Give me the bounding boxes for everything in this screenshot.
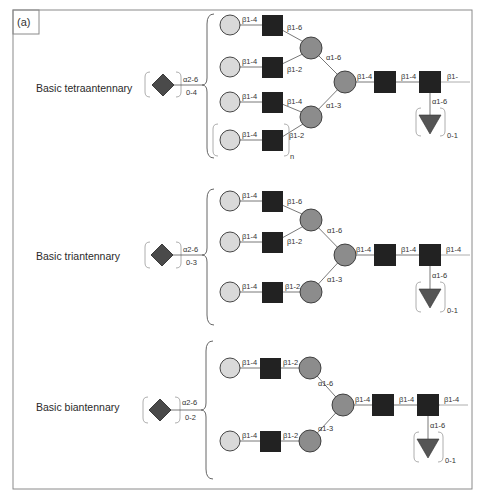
sialic-bracket-left	[145, 72, 150, 97]
glcnac-node	[262, 282, 283, 303]
glcnac-node	[262, 15, 283, 36]
glcnac-node	[262, 232, 283, 253]
linkage-label: β1-4	[356, 245, 371, 254]
linkage-label: β1-4	[357, 72, 372, 81]
fucose-bracket-left	[416, 282, 421, 312]
linkage-label: β1-4	[242, 15, 257, 24]
fucose-bracket-left	[414, 432, 419, 462]
fucose-count: 0-1	[447, 131, 458, 140]
reducing-glcnac-node	[417, 394, 439, 416]
glcnac-node	[262, 57, 283, 78]
fucose-triangle	[419, 115, 441, 134]
linkage-label: β1-4	[242, 191, 257, 200]
structure-title: Basic triantennary	[36, 250, 121, 262]
sialic-acid-diamond	[151, 244, 173, 266]
glcnac-node	[262, 92, 283, 113]
linkage-label: β1-4	[446, 245, 461, 254]
sialic-count: 0-3	[186, 258, 197, 267]
linkage-label: β1-4	[401, 72, 416, 81]
core-mannose-node	[334, 71, 356, 93]
reducing-glcnac-node	[419, 71, 441, 93]
linkage-label: β1-6	[287, 197, 302, 206]
linkage-label: β1-4	[242, 282, 257, 291]
linkage-label: α1-6	[327, 226, 342, 235]
linkage-label: α1-6	[432, 271, 447, 280]
galactose-node	[220, 431, 240, 451]
mannose-node	[299, 357, 321, 379]
linkage-label: β1-2	[287, 65, 302, 74]
linkage-label: β1-4	[401, 245, 416, 254]
core-mannose-node	[334, 244, 356, 266]
sialic-bracket-left	[143, 397, 148, 423]
sialic-count: 0-2	[185, 413, 196, 422]
glcnac-node	[262, 191, 283, 212]
mannose-node	[300, 106, 322, 128]
structure-tetraantennary: Basic tetraantennary α2-6 0-4	[36, 14, 470, 161]
sialic-linkage: α2-6	[183, 245, 198, 254]
galactose-node	[220, 15, 240, 35]
linkage-label: α1-6	[326, 53, 341, 62]
linkage-label: β1-	[447, 72, 458, 81]
galactose-node	[220, 232, 240, 252]
linkage-label: β1-4	[355, 395, 370, 404]
galactose-node	[220, 282, 240, 302]
sialic-acid-diamond	[152, 74, 174, 96]
linkage-label: β1-2	[283, 358, 298, 367]
antennae-brace	[201, 341, 213, 479]
linkage-label: α1-6	[318, 379, 333, 388]
repeat-bracket-right	[284, 124, 289, 156]
fucose-count: 0-1	[447, 306, 458, 315]
linkage-label: β1-6	[287, 23, 302, 32]
linkage-label: β1-4	[242, 130, 257, 139]
linkage-label: α1-6	[430, 421, 445, 430]
panel-label: (a)	[17, 16, 30, 28]
galactose-node	[220, 358, 240, 378]
galactose-node	[220, 57, 240, 77]
linkage-label: β1-2	[289, 131, 304, 140]
reducing-glcnac-node	[419, 244, 441, 266]
linkage-label: β1-2	[285, 282, 300, 291]
galactose-node	[220, 191, 240, 211]
sialic-bracket-right	[176, 72, 181, 97]
fucose-bracket-right	[438, 432, 443, 462]
core-glcnac-node	[372, 394, 394, 416]
linkage-label: α1-3	[326, 101, 341, 110]
structure-title: Basic biantennary	[36, 401, 120, 413]
structure-triantennary: Basic triantennary α2-6 0-3 β1-4 β	[36, 189, 470, 325]
sialic-bracket-left	[145, 242, 150, 268]
linkage-label: β1-4	[287, 97, 302, 106]
mannose-node	[299, 430, 321, 452]
antennae-brace	[202, 14, 214, 158]
galactose-node	[220, 130, 240, 150]
linkage-label: β1-2	[283, 431, 298, 440]
linkage-label: α1-3	[318, 424, 333, 433]
mannose-node	[300, 281, 322, 303]
glcnac-node	[262, 130, 283, 151]
linkage-label: β1-4	[242, 358, 257, 367]
linkage-label: β1-4	[444, 395, 459, 404]
linkage-label: β1-4	[242, 232, 257, 241]
sialic-linkage: α2-6	[182, 398, 197, 407]
sialic-linkage: α2-6	[183, 75, 198, 84]
fucose-bracket-right	[440, 282, 445, 312]
repeat-count: n	[290, 152, 294, 161]
linkage-label: β1-4	[242, 92, 257, 101]
linkage-label: β1-4	[242, 57, 257, 66]
linkage-label: α1-6	[432, 97, 447, 106]
structure-biantennary: Basic biantennary α2-6 0-2 β1-4 β1-2 β1-…	[36, 341, 468, 479]
mannose-node	[300, 209, 322, 231]
glcnac-node	[260, 358, 281, 379]
fucose-count: 0-1	[445, 456, 456, 465]
antennae-brace	[202, 189, 214, 325]
repeat-bracket-left	[213, 124, 218, 156]
core-mannose-node	[332, 394, 354, 416]
core-glcnac-node	[374, 71, 396, 93]
galactose-node	[220, 92, 240, 112]
glcnac-node	[260, 431, 281, 452]
linkage-label: α1-3	[327, 275, 342, 284]
glycan-diagram: (a) Basic tetraantennary α2-6 0-4	[0, 0, 495, 503]
structure-title: Basic tetraantennary	[36, 82, 133, 94]
fucose-triangle	[417, 439, 439, 458]
sialic-acid-diamond	[149, 399, 171, 421]
mannose-node	[300, 37, 322, 59]
